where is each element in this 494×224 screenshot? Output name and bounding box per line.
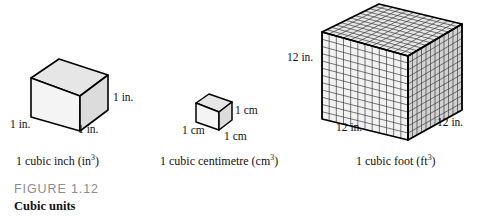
- caption-cubic-centimetre-tail: ): [274, 154, 278, 168]
- label-cubic-inch-right-edge: 1 in.: [113, 92, 133, 104]
- caption-cubic-centimetre-text: 1 cubic centimetre (cm: [160, 154, 270, 168]
- label-cubic-centimetre-left-edge: 1 cm: [182, 125, 205, 137]
- label-cubic-inch-left-edge: 1 in.: [10, 119, 30, 131]
- caption-cubic-foot-tail: ): [432, 154, 436, 168]
- label-cubic-foot-right-edge: 12 in.: [437, 117, 463, 129]
- label-cubic-inch-front-edge: 1 in.: [78, 124, 98, 136]
- label-cubic-centimetre-front-edge: 1 cm: [224, 131, 247, 143]
- caption-cubic-inch-text: 1 cubic inch (in: [16, 154, 91, 168]
- label-cubic-centimetre-right-edge: 1 cm: [235, 105, 258, 117]
- caption-cubic-inch: 1 cubic inch (in3): [16, 155, 99, 167]
- caption-cubic-centimetre: 1 cubic centimetre (cm3): [160, 155, 278, 167]
- figure-title: Cubic units: [14, 199, 75, 214]
- label-cubic-foot-left-edge: 12 in.: [287, 52, 313, 64]
- figure-number: FIGURE 1.12: [14, 182, 99, 196]
- label-cubic-foot-front-edge: 12 in.: [336, 122, 362, 134]
- caption-cubic-inch-tail: ): [95, 154, 99, 168]
- caption-cubic-foot-text: 1 cubic foot (ft: [356, 154, 428, 168]
- caption-cubic-foot: 1 cubic foot (ft3): [356, 155, 436, 167]
- cube-cubic-inch: [31, 59, 108, 131]
- figure-cubic-units: 1 in. 1 in. 1 in. 1 cm 1 cm 1 cm 12 in. …: [0, 0, 494, 224]
